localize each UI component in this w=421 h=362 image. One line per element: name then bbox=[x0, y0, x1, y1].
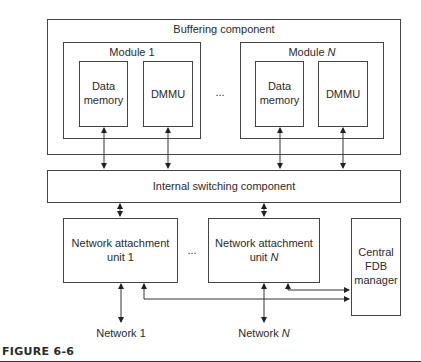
dmmu-n-label: DMMU bbox=[326, 88, 360, 100]
module-ellipsis: ... bbox=[215, 86, 224, 98]
data-memory-n-label-line1: Data bbox=[268, 80, 292, 92]
nau-ellipsis: ... bbox=[187, 244, 196, 256]
arrow-nau-n-fdb bbox=[288, 284, 349, 290]
nau-n-label-line2: unit N bbox=[250, 251, 279, 263]
buffering-component-label: Buffering component bbox=[173, 23, 274, 35]
data-memory-n-label-line2: memory bbox=[260, 94, 300, 106]
dmmu-1-label: DMMU bbox=[151, 88, 185, 100]
data-memory-1-label-line1: Data bbox=[92, 80, 116, 92]
arrow-nau-1-fdb bbox=[144, 284, 349, 299]
module-n-label: Module N bbox=[288, 46, 335, 58]
figure-caption: FIGURE 6-6 bbox=[2, 345, 74, 358]
nau-1-label-line1: Network attachment bbox=[72, 237, 170, 249]
network-1-label: Network 1 bbox=[96, 327, 146, 339]
nau-n-label-line1: Network attachment bbox=[215, 237, 313, 249]
fdb-label-line1: Central bbox=[358, 246, 393, 258]
data-memory-1-label-line2: memory bbox=[84, 94, 124, 106]
diagram-canvas: Buffering component Module 1 Data memory… bbox=[0, 0, 421, 362]
internal-switching-label: Internal switching component bbox=[153, 180, 295, 192]
network-n-label: Network N bbox=[238, 327, 289, 339]
fdb-label-line2: FDB bbox=[365, 260, 387, 272]
module-1-label: Module 1 bbox=[109, 46, 154, 58]
nau-1-label-line2: unit 1 bbox=[107, 251, 134, 263]
fdb-label-line3: manager bbox=[354, 274, 398, 286]
